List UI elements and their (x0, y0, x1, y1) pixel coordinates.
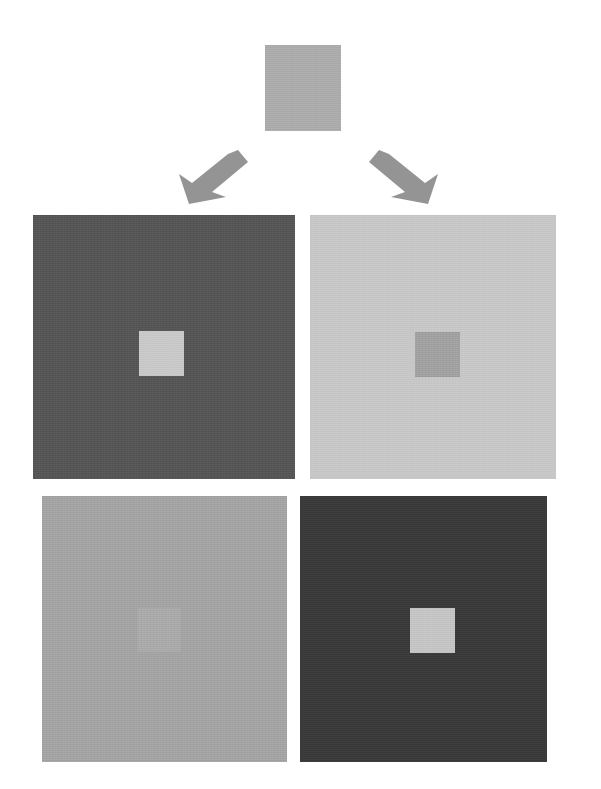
center-patch-bottom-left (137, 608, 181, 652)
arrow-down-right-shape (369, 150, 438, 204)
arrow-down-right-icon (369, 148, 441, 206)
arrow-down-left-shape (179, 150, 248, 204)
source-gray-swatch (265, 45, 341, 131)
center-patch-bottom-right (410, 608, 455, 653)
arrow-down-left-icon (176, 148, 248, 206)
center-patch-top-right (415, 332, 460, 377)
figure-canvas (0, 0, 601, 789)
center-patch-top-left (139, 331, 184, 376)
